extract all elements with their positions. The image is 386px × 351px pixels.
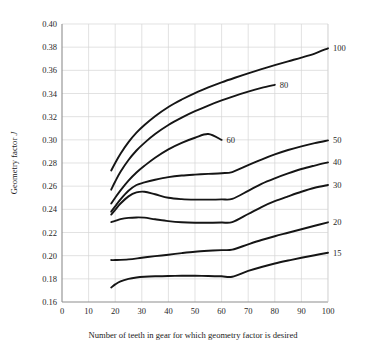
x-tick-label: 0 [60, 306, 64, 316]
y-tick-label: 0.38 [42, 42, 57, 52]
x-tick-label: 100 [322, 306, 335, 316]
y-tick-label: 0.28 [42, 158, 57, 168]
y-tick-label: 0.32 [42, 112, 57, 122]
curve-label-40: 40 [333, 157, 342, 167]
curve-label-50: 50 [333, 135, 342, 145]
geometry-factor-chart: 0102030405060708090100 0.160.180.200.220… [0, 0, 386, 351]
y-tick-label: 0.30 [42, 135, 57, 145]
x-tick-label: 70 [244, 306, 253, 316]
curve-label-15: 15 [333, 248, 342, 258]
curve-label-60: 60 [227, 135, 236, 145]
y-tick-label: 0.34 [42, 89, 58, 99]
curve-label-100: 100 [333, 43, 346, 53]
y-tick-label: 0.20 [42, 251, 57, 261]
x-tick-label: 10 [84, 306, 93, 316]
x-tick-label: 40 [164, 306, 173, 316]
x-tick-label: 60 [217, 306, 226, 316]
y-tick-label: 0.24 [42, 204, 58, 214]
x-tick-label: 90 [297, 306, 306, 316]
x-tick-label: 20 [111, 306, 120, 316]
y-tick-label: 0.18 [42, 274, 57, 284]
x-axis-title: Number of teeth in gear for which geomet… [88, 330, 298, 340]
y-tick-label: 0.16 [42, 297, 57, 307]
curve-label-20: 20 [333, 217, 342, 227]
x-tick-label: 30 [138, 306, 147, 316]
x-tick-label: 80 [271, 306, 280, 316]
y-tick-label: 0.26 [42, 181, 57, 191]
curve-label-80: 80 [280, 80, 289, 90]
chart-canvas: 0102030405060708090100 0.160.180.200.220… [0, 0, 386, 351]
y-tick-label: 0.40 [42, 19, 57, 29]
y-tick-label: 0.36 [42, 65, 57, 75]
y-tick-label: 0.22 [42, 228, 57, 238]
y-axis-title: Geometry factor J [9, 131, 19, 195]
y-axis-title-group: Geometry factor J [9, 131, 19, 195]
x-tick-label: 50 [191, 306, 200, 316]
curve-label-30: 30 [333, 180, 342, 190]
